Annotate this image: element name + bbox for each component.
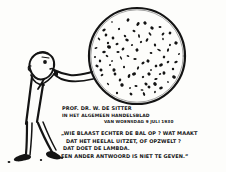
nebula-dot bbox=[167, 81, 169, 83]
nebula-dot bbox=[106, 82, 109, 85]
caption-line-2: IN HET ALGEMEEN HANDELSBLAD bbox=[62, 113, 150, 118]
nebula-dot bbox=[148, 32, 152, 36]
shoe-left bbox=[14, 154, 31, 161]
nebula-dots bbox=[94, 18, 181, 96]
quote-line-4: EEN ANDER ANTWOORD IS NIET TE GEVEN.” bbox=[61, 153, 188, 159]
nebula-dot bbox=[172, 75, 177, 79]
nebula-dot bbox=[99, 60, 102, 63]
nebula-dot bbox=[141, 75, 144, 78]
nebula-dot bbox=[143, 21, 148, 26]
nebula-dot bbox=[168, 31, 172, 35]
nebula-dot bbox=[111, 60, 113, 63]
nebula-dot bbox=[159, 86, 163, 90]
nebula-dot bbox=[123, 66, 125, 69]
nebula-dot bbox=[127, 74, 131, 79]
nebula-dot bbox=[119, 56, 122, 60]
nebula-dot bbox=[105, 33, 108, 36]
nebula-dot bbox=[116, 92, 119, 95]
nebula-dot bbox=[116, 51, 119, 53]
nebula-dot bbox=[158, 26, 161, 28]
leg-left-inner bbox=[30, 123, 32, 155]
nebula-dot bbox=[150, 52, 153, 54]
nebula-dot bbox=[144, 82, 148, 86]
nebula-dot bbox=[152, 81, 157, 86]
nebula-dot bbox=[162, 71, 165, 75]
nebula-dot bbox=[112, 68, 115, 72]
caption-line-3: VAN WOENSDAG 9 JULI 1930 bbox=[104, 119, 173, 124]
shoe-right bbox=[46, 151, 61, 159]
nebula-dot bbox=[145, 38, 149, 42]
nebula-dot bbox=[157, 48, 161, 51]
nebula-dot bbox=[100, 73, 104, 77]
nebula-dot bbox=[154, 78, 158, 81]
quote-line-3: DAT DOET DE LAMBDA. bbox=[63, 145, 130, 151]
nebula-dot bbox=[118, 78, 121, 81]
nebula-dot bbox=[126, 18, 130, 22]
nebula-dot bbox=[115, 42, 119, 45]
nebula-dot bbox=[150, 69, 153, 71]
nebula-dot bbox=[178, 53, 181, 56]
quote-line-1: „WIE BLAAST ECHTER DE BAL OP ? WAT MAAKT bbox=[61, 130, 198, 136]
nebula-dot bbox=[94, 47, 97, 49]
nebula-dot bbox=[169, 44, 172, 47]
nebula-dot bbox=[174, 60, 178, 64]
quote-block: „WIE BLAAST ECHTER DE BAL OP ? WAT MAAKT… bbox=[61, 130, 198, 159]
eyebrow bbox=[42, 57, 49, 58]
balloon-outline bbox=[89, 8, 185, 104]
nebula-dot bbox=[132, 29, 136, 32]
nebula-dot bbox=[105, 54, 108, 57]
nebula-dot bbox=[113, 72, 116, 76]
leg-left bbox=[26, 122, 27, 154]
torso-left bbox=[26, 77, 32, 124]
nebula-dot bbox=[147, 85, 151, 89]
nebula-dot bbox=[135, 48, 139, 52]
nebula-dot bbox=[131, 44, 134, 47]
nebula-dot bbox=[97, 37, 100, 41]
nebula-dot bbox=[142, 92, 145, 96]
nebula-dot bbox=[125, 38, 129, 42]
nebula-dot bbox=[161, 32, 165, 36]
nebula-dot bbox=[107, 41, 110, 44]
caption-line-1: PROF. DR. W. DE SITTER bbox=[62, 105, 132, 111]
nebula-dot bbox=[138, 34, 141, 38]
man-blowing-balloon bbox=[8, 52, 64, 163]
drawing-canvas: PROF. DR. W. DE SITTER IN HET ALGEMEEN H… bbox=[0, 0, 226, 172]
nebula-dot bbox=[162, 38, 164, 41]
hair bbox=[33, 52, 48, 57]
nebula-dot bbox=[102, 28, 107, 32]
nebula-dot bbox=[172, 68, 175, 71]
nebula-dot bbox=[118, 28, 120, 30]
nebula-dot bbox=[139, 40, 142, 43]
nebula-dot bbox=[99, 68, 102, 71]
nebula-dot bbox=[95, 64, 99, 68]
ground-speck-2 bbox=[40, 159, 42, 161]
nebula-dot bbox=[147, 72, 152, 77]
nebula-dot bbox=[132, 72, 137, 76]
nebula-dot bbox=[134, 85, 138, 88]
nebula-dot bbox=[136, 66, 139, 70]
caption-block: PROF. DR. W. DE SITTER IN HET ALGEMEEN H… bbox=[62, 105, 173, 124]
nebula-dot bbox=[162, 55, 166, 59]
quote-line-2: DAT HET HEELAL UITZET, OF OPZWELT ? bbox=[66, 138, 181, 144]
nebula-dot bbox=[154, 91, 156, 94]
nebula-dot bbox=[109, 64, 112, 67]
nebula-dot bbox=[174, 41, 178, 45]
nebula-dot bbox=[166, 60, 169, 63]
nebula-dot bbox=[126, 55, 129, 58]
nebula-dot bbox=[140, 89, 143, 91]
nebula-dot bbox=[141, 61, 145, 65]
nebula-dot bbox=[133, 58, 136, 60]
nebula-dot bbox=[154, 64, 158, 68]
nebula-dot bbox=[129, 87, 132, 89]
nebula-dot bbox=[167, 48, 170, 52]
balloon-neck bbox=[54, 70, 92, 75]
nebula-dot bbox=[154, 43, 157, 46]
nebula-dot bbox=[102, 51, 106, 54]
nebula-dot bbox=[111, 36, 114, 39]
nebula-dot bbox=[146, 59, 150, 63]
nebula-dot bbox=[94, 56, 96, 58]
torso-right bbox=[37, 85, 43, 122]
nebula-dot bbox=[129, 92, 133, 96]
universe-balloon bbox=[54, 8, 185, 104]
nebula-dot bbox=[159, 63, 164, 68]
